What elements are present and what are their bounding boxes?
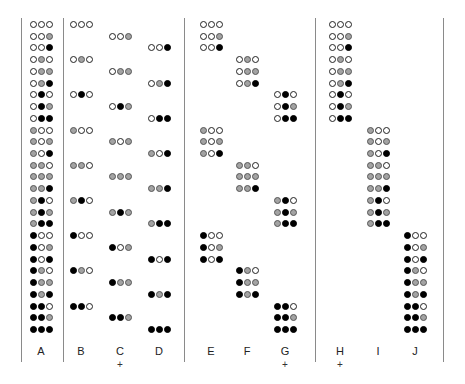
- circle-gray-icon: [236, 173, 243, 180]
- circle-gray-icon: [252, 68, 259, 75]
- circle-triple-101: [30, 138, 53, 146]
- circle-gray-icon: [38, 185, 45, 192]
- circle-black-icon: [109, 279, 116, 286]
- column-label-G: G: [281, 345, 290, 357]
- circle-triple-102: [367, 150, 390, 158]
- circle-gray-icon: [46, 244, 53, 251]
- circle-gray-icon: [30, 209, 37, 216]
- circle-black-icon: [420, 326, 427, 333]
- circle-gray-icon: [70, 162, 77, 169]
- circle-white-icon: [329, 91, 336, 98]
- circle-white-icon: [38, 44, 45, 51]
- circle-gray-icon: [78, 267, 85, 274]
- circle-white-icon: [78, 232, 85, 239]
- circle-gray-icon: [30, 220, 37, 227]
- circle-triple-012: [236, 80, 259, 88]
- circle-gray-icon: [70, 197, 77, 204]
- circle-gray-icon: [244, 267, 251, 274]
- circle-white-icon: [383, 127, 390, 134]
- circle-white-icon: [345, 56, 352, 63]
- circle-triple-201: [404, 244, 427, 252]
- circle-triple-111: [30, 173, 53, 181]
- circle-triple-200: [200, 232, 223, 240]
- circle-white-icon: [117, 244, 124, 251]
- circle-white-icon: [329, 80, 336, 87]
- circle-gray-icon: [38, 68, 45, 75]
- circle-triple-110: [236, 162, 259, 170]
- circle-black-icon: [38, 314, 45, 321]
- divider-line: [21, 18, 22, 362]
- circle-gray-icon: [337, 80, 344, 87]
- circle-gray-icon: [420, 244, 427, 251]
- circle-black-icon: [375, 209, 382, 216]
- circle-gray-icon: [38, 80, 45, 87]
- circle-triple-122: [148, 220, 171, 228]
- circle-white-icon: [109, 33, 116, 40]
- circle-triple-110: [70, 162, 93, 170]
- circle-triple-210: [30, 267, 53, 275]
- circle-black-icon: [404, 303, 411, 310]
- circle-gray-icon: [252, 279, 259, 286]
- circle-gray-icon: [420, 314, 427, 321]
- circle-black-icon: [148, 291, 155, 298]
- circle-triple-111: [109, 173, 132, 181]
- circle-white-icon: [208, 244, 215, 251]
- circle-white-icon: [345, 91, 352, 98]
- circle-triple-112: [148, 185, 171, 193]
- circle-gray-icon: [274, 197, 281, 204]
- circle-black-icon: [216, 44, 223, 51]
- circle-gray-icon: [383, 138, 390, 145]
- circle-triple-021: [274, 103, 297, 111]
- circle-white-icon: [420, 267, 427, 274]
- circle-white-icon: [337, 33, 344, 40]
- circle-gray-icon: [367, 138, 374, 145]
- circle-white-icon: [86, 267, 93, 274]
- circle-gray-icon: [156, 291, 163, 298]
- circle-triple-012: [30, 80, 53, 88]
- column-label-E: E: [207, 345, 214, 357]
- circle-gray-icon: [46, 314, 53, 321]
- circle-gray-icon: [38, 162, 45, 169]
- circle-white-icon: [30, 80, 37, 87]
- circle-triple-222: [404, 326, 427, 334]
- circle-white-icon: [200, 33, 207, 40]
- circle-black-icon: [70, 232, 77, 239]
- circle-white-icon: [86, 127, 93, 134]
- circle-white-icon: [38, 256, 45, 263]
- circle-black-icon: [404, 267, 411, 274]
- circle-gray-icon: [46, 33, 53, 40]
- circle-black-icon: [404, 256, 411, 263]
- column-label-B: B: [77, 345, 84, 357]
- circle-black-icon: [252, 291, 259, 298]
- circle-black-icon: [46, 326, 53, 333]
- circle-triple-220: [70, 303, 93, 311]
- circle-white-icon: [70, 91, 77, 98]
- circle-triple-011: [30, 68, 53, 76]
- circle-gray-icon: [200, 127, 207, 134]
- circle-triple-202: [148, 256, 171, 264]
- circle-triple-022: [329, 115, 352, 123]
- circle-gray-icon: [345, 33, 352, 40]
- circle-white-icon: [46, 56, 53, 63]
- circle-gray-icon: [290, 314, 297, 321]
- circle-black-icon: [164, 115, 171, 122]
- circle-black-icon: [38, 115, 45, 122]
- circle-triple-221: [30, 314, 53, 322]
- circle-triple-120: [367, 197, 390, 205]
- circle-black-icon: [164, 185, 171, 192]
- circle-triple-001: [200, 33, 223, 41]
- circle-black-icon: [117, 209, 124, 216]
- circle-triple-020: [30, 91, 53, 99]
- circle-triple-122: [367, 220, 390, 228]
- circle-black-icon: [38, 220, 45, 227]
- circle-white-icon: [208, 232, 215, 239]
- circle-black-icon: [148, 326, 155, 333]
- circle-white-icon: [274, 103, 281, 110]
- circle-gray-icon: [78, 56, 85, 63]
- circle-gray-icon: [244, 173, 251, 180]
- circle-gray-icon: [244, 80, 251, 87]
- circle-gray-icon: [125, 209, 132, 216]
- circle-triple-110: [367, 162, 390, 170]
- circle-white-icon: [30, 21, 37, 28]
- circle-gray-icon: [125, 103, 132, 110]
